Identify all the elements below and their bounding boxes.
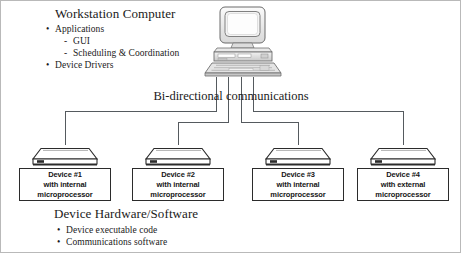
page-title-workstation: Workstation Computer — [55, 6, 175, 22]
bullet-text: Device executable code — [66, 225, 157, 235]
bullet-device-executable-code: •Device executable code — [57, 225, 157, 235]
bullet-device-drivers: •Device Drivers — [46, 60, 113, 70]
wire-to-device-2 — [179, 77, 229, 145]
bullet-text: Scheduling & Coordination — [73, 48, 179, 58]
bullet-text: Device Drivers — [55, 60, 113, 70]
device-name: Device #2 — [161, 170, 195, 180]
device-hardware-icon — [264, 143, 332, 167]
wire-to-device-1 — [66, 77, 217, 145]
device-label-box-4: Device #4 with external microprocessor — [357, 168, 449, 201]
device-hardware-icon — [31, 143, 99, 167]
desktop-computer-icon — [203, 3, 283, 77]
device-detail-1: with internal — [157, 180, 200, 190]
device-label-box-1: Device #1 with internal microprocessor — [19, 168, 111, 201]
device-detail-2: microprocessor — [375, 190, 430, 200]
bullet-marker: - — [64, 48, 73, 58]
device-detail-1: with internal — [277, 180, 320, 190]
page-title-device-hardware-software: Device Hardware/Software — [54, 206, 198, 222]
device-hardware-icon — [144, 143, 212, 167]
device-name: Device #3 — [281, 170, 315, 180]
device-label-box-2: Device #2 with internal microprocessor — [132, 168, 224, 201]
wire-to-device-3 — [242, 77, 299, 145]
bullet-communications-software: •Communications software — [57, 237, 167, 247]
bullet-marker: • — [46, 60, 55, 70]
bullet-scheduling-coordination: -Scheduling & Coordination — [64, 48, 179, 58]
diagram-canvas: Workstation Computer •Applications -GUI … — [0, 0, 462, 254]
bullet-applications: •Applications — [46, 24, 104, 34]
device-name: Device #4 — [386, 170, 420, 180]
device-detail-1: with external — [381, 180, 426, 190]
bullet-gui: -GUI — [64, 36, 90, 46]
bullet-marker: • — [57, 237, 66, 247]
bullet-marker: • — [57, 225, 66, 235]
bullet-text: Communications software — [66, 237, 167, 247]
connection-label: Bi-directional communications — [0, 89, 462, 104]
device-detail-2: microprocessor — [37, 190, 92, 200]
bullet-marker: • — [46, 24, 55, 34]
device-detail-2: microprocessor — [270, 190, 325, 200]
device-detail-2: microprocessor — [150, 190, 205, 200]
device-name: Device #1 — [48, 170, 82, 180]
bullet-text: Applications — [55, 24, 104, 34]
wire-to-device-4 — [254, 77, 404, 145]
bullet-text: GUI — [73, 36, 90, 46]
device-label-box-3: Device #3 with internal microprocessor — [252, 168, 344, 201]
bullet-marker: - — [64, 36, 73, 46]
device-hardware-icon — [369, 143, 437, 167]
device-detail-1: with internal — [44, 180, 87, 190]
